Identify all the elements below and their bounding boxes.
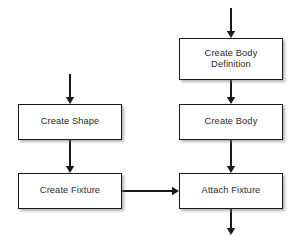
node-create-body[interactable]: Create Body [179, 104, 283, 140]
arrow-entry-to-create-shape [66, 74, 74, 104]
flowchart-canvas: Create Body Definition Create Shape Crea… [0, 0, 298, 243]
node-create-body-label: Create Body [202, 116, 261, 128]
node-create-shape[interactable]: Create Shape [18, 104, 122, 140]
node-create-fixture[interactable]: Create Fixture [18, 173, 122, 209]
node-attach-fixture[interactable]: Attach Fixture [179, 173, 283, 209]
arrow-create-fixture-to-attach-fixture [122, 187, 179, 195]
node-attach-fixture-label: Attach Fixture [199, 185, 264, 197]
arrow-create-shape-to-create-fixture [66, 140, 74, 173]
arrow-attach-fixture-to-exit [227, 209, 235, 235]
node-create-shape-label: Create Shape [38, 116, 103, 128]
node-create-body-definition[interactable]: Create Body Definition [179, 38, 283, 80]
arrow-create-body-to-attach-fixture [227, 140, 235, 173]
node-create-fixture-label: Create Fixture [37, 185, 103, 197]
arrow-create-body-definition-to-create-body [227, 80, 235, 104]
node-create-body-definition-label: Create Body Definition [202, 48, 261, 71]
arrow-entry-to-create-body-definition [227, 8, 235, 38]
